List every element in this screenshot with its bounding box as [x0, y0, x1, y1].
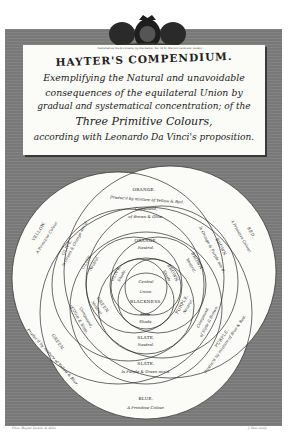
blue-label: BLUE. — [138, 396, 153, 401]
compound-top-label: Compound, — [135, 206, 158, 211]
orange-inner-desc: Neutral. — [137, 245, 154, 250]
credit-right: J. Pass sculp. — [248, 426, 268, 430]
orange-inner-label: ORANGE. — [134, 238, 157, 243]
compound-top-desc: of Brown & Olive. — [128, 214, 163, 219]
slate-middle-label: SLATE. — [137, 361, 154, 366]
orange-outer-label: ORANGE. — [132, 187, 155, 192]
blackness-label: BLACKNESS. — [130, 299, 162, 304]
central-label: Central — [139, 279, 155, 284]
blue-desc: A Primitive Colour. — [126, 405, 165, 410]
slate-inner-desc: Neutral. — [137, 342, 154, 347]
slate-middle-desc: Is Purple & Green mix'd. — [121, 369, 171, 374]
slate-shade-desc: Shade. — [139, 319, 153, 324]
slate-inner-label: SLATE. — [137, 335, 154, 340]
colour-circles-diagram: ORANGE. Produc'd by mixture of Yellow & … — [0, 0, 300, 436]
union-label: Union. — [139, 289, 152, 294]
credit-left: Chas. Hayter Invent. & delin. — [12, 426, 57, 430]
slate-shade-label: Slate. — [140, 312, 151, 317]
